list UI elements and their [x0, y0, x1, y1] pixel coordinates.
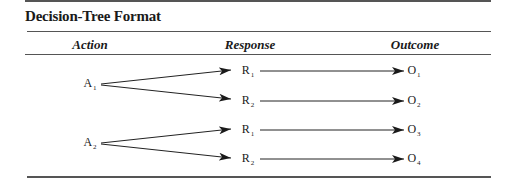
node-a1-r1: R1: [242, 63, 255, 79]
node-letter: O: [407, 122, 416, 136]
arrow-a2-r1: [101, 129, 231, 143]
node-subscript: 2: [93, 143, 97, 151]
node-o3: O3: [407, 122, 420, 138]
node-subscript: 1: [417, 71, 421, 79]
node-a2-r1: R1: [242, 122, 255, 138]
node-o1: O1: [407, 63, 420, 79]
node-a1-r2: R2: [242, 93, 255, 109]
arrow-a2-r2: [101, 144, 231, 158]
arrow-a1-r2: [101, 85, 231, 99]
node-letter: O: [407, 151, 416, 165]
node-a1: A1: [83, 76, 96, 92]
node-subscript: 2: [251, 101, 255, 109]
node-letter: R: [242, 151, 250, 165]
node-a2: A2: [83, 135, 96, 151]
node-letter: O: [407, 63, 416, 77]
node-subscript: 3: [417, 130, 421, 138]
node-o2: O2: [407, 93, 420, 109]
node-letter: R: [242, 63, 250, 77]
node-subscript: 2: [251, 159, 255, 167]
node-subscript: 1: [251, 130, 255, 138]
node-subscript: 1: [251, 71, 255, 79]
node-subscript: 2: [417, 101, 421, 109]
node-letter: A: [83, 76, 92, 90]
bottom-rule: [27, 176, 491, 178]
node-letter: A: [83, 135, 92, 149]
arrow-a1-r1: [101, 70, 231, 84]
node-subscript: 4: [417, 159, 421, 167]
decision-tree-arrows: [0, 0, 512, 190]
node-subscript: 1: [93, 84, 97, 92]
node-letter: R: [242, 93, 250, 107]
node-letter: R: [242, 122, 250, 136]
node-o4: O4: [407, 151, 420, 167]
node-a2-r2: R2: [242, 151, 255, 167]
node-letter: O: [407, 93, 416, 107]
